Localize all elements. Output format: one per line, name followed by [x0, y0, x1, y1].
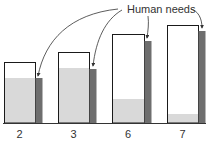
human-needs-bar: [145, 41, 152, 123]
arrow-icon: [93, 10, 122, 66]
bar-group-3: [58, 53, 97, 124]
x-tick-label: 2: [16, 128, 22, 140]
bar-group-2: [4, 63, 43, 124]
human-needs-bar: [199, 31, 206, 123]
filled-portion: [58, 68, 89, 123]
human-needs-bar: [36, 78, 43, 123]
arrow-icon: [38, 9, 118, 76]
x-tick-label: 3: [70, 128, 76, 140]
arrow-icon: [147, 16, 148, 38]
bar-group-6: [112, 35, 152, 124]
filled-portion: [4, 78, 35, 123]
human-needs-annotation: Human needs: [127, 3, 196, 15]
x-tick-labels: 2367: [16, 128, 185, 140]
filled-portion: [167, 114, 198, 123]
capacity-box: [168, 26, 199, 124]
annotation-arrows: [38, 9, 202, 76]
x-tick-label: 6: [125, 128, 131, 140]
bar-groups: [4, 26, 206, 124]
x-tick-label: 7: [179, 128, 185, 140]
human-needs-bar: [90, 69, 97, 123]
bar-group-7: [167, 26, 206, 124]
human-needs-chart: 2367 Human needs: [0, 0, 207, 145]
filled-portion: [112, 99, 144, 123]
